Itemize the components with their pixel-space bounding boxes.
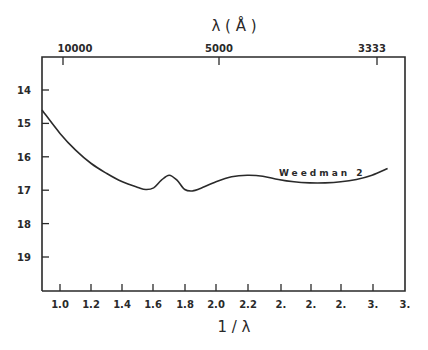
x-tick-label: 2.0 [207, 299, 225, 310]
x-tick-label: 2. [276, 299, 287, 310]
y-tick-label: 16 [17, 152, 31, 163]
x2-tick-label: 5000 [205, 43, 233, 54]
x-tick-label: 3. [400, 299, 411, 310]
x-tick-label: 1.2 [82, 299, 100, 310]
y-tick-label: 17 [17, 185, 31, 196]
x2-tick-label: 10000 [58, 43, 93, 54]
top-axis-title: λ ( Å ) [211, 16, 256, 35]
y-tick-label: 14 [17, 85, 31, 96]
y-tick-label: 15 [17, 118, 31, 129]
x-tick-label: 1.8 [176, 299, 194, 310]
x-tick-label: 1.0 [51, 299, 69, 310]
x-tick-label: 2.2 [239, 299, 257, 310]
x-tick-label: 3. [368, 299, 379, 310]
x-tick-label: 1.4 [113, 299, 131, 310]
x-tick-label: 2. [306, 299, 317, 310]
spectrum-chart: 141516171819 1.01.21.41.61.82.02.22.2.2.… [0, 0, 428, 350]
y-tick-label: 18 [17, 219, 31, 230]
series-label: Weedman 2 [279, 168, 366, 178]
y-tick-label: 19 [17, 252, 31, 263]
x2-tick-label: 3333 [358, 43, 386, 54]
x-axis-top: 1000050003333 [58, 43, 386, 65]
bottom-axis-title: 1 / λ [217, 318, 250, 336]
x-tick-label: 2. [336, 299, 347, 310]
x-tick-label: 1.6 [144, 299, 162, 310]
x-axis-bottom: 1.01.21.41.61.82.02.22.2.2.3.3. [51, 284, 410, 310]
series-line-weedman-2 [42, 110, 388, 191]
